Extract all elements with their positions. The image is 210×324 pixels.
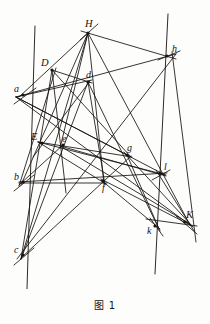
- segment-H-h: [81, 31, 176, 59]
- vertex-dot-c: [21, 253, 24, 256]
- point-label-K: K: [186, 210, 193, 221]
- geometry-diagram: [0, 0, 210, 289]
- vertex-dot-a: [21, 93, 24, 96]
- figure-caption: 图 1: [0, 297, 210, 312]
- point-label-g: g: [127, 143, 132, 153]
- segment-H-e: [60, 33, 88, 148]
- vertex-dot-D: [50, 68, 53, 71]
- segment-E-l: [38, 142, 166, 175]
- segment-g-k: [127, 155, 160, 231]
- vertex-dot-d: [86, 80, 89, 83]
- vertex-dot-E: [40, 141, 43, 144]
- point-label-f: f: [102, 183, 105, 193]
- point-label-c: c: [14, 245, 18, 255]
- point-label-D: D: [41, 58, 49, 69]
- vertex-dot-K: [183, 220, 186, 223]
- segment-H-f: [88, 33, 104, 184]
- vertex-dot-H: [86, 31, 89, 34]
- segment-a-h: [16, 54, 176, 97]
- segment-c-g: [21, 156, 131, 258]
- vertex-dot-k: [153, 224, 156, 227]
- vertex-dot-h: [165, 54, 168, 57]
- point-label-d: d: [86, 70, 91, 80]
- segment-g-K: [124, 152, 193, 227]
- segment-H-a: [19, 33, 88, 97]
- segment-c-f-h: [17, 54, 176, 259]
- segment-H-K: [88, 33, 190, 225]
- vertex-dot-b: [21, 180, 24, 183]
- point-label-l: l: [164, 162, 167, 172]
- point-label-b: b: [14, 172, 19, 182]
- point-label-a: a: [14, 84, 19, 94]
- vertex-dot-l: [158, 171, 161, 174]
- figure-container: HhDdaEeglbfKkc 图 1: [0, 0, 210, 324]
- point-label-E: E: [31, 132, 37, 143]
- segment-d-f: [88, 82, 105, 185]
- vertex-dot-g: [125, 153, 128, 156]
- point-label-h: h: [172, 44, 177, 54]
- point-label-k: k: [147, 226, 151, 236]
- point-label-H: H: [85, 19, 93, 30]
- point-label-e: e: [62, 134, 66, 144]
